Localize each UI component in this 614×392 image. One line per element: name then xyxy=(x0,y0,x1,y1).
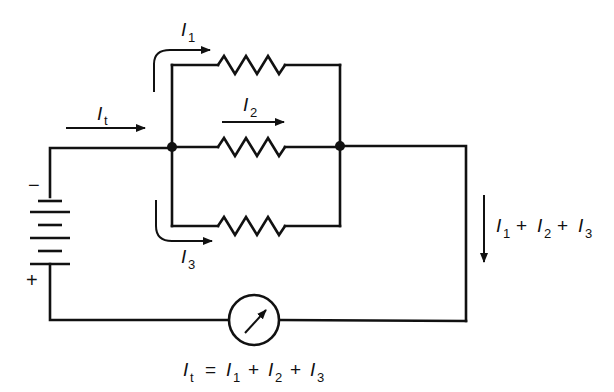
svg-text:I: I xyxy=(578,215,584,236)
ammeter-icon xyxy=(229,295,279,345)
svg-text:1: 1 xyxy=(503,226,510,241)
branch1-current-arrow-icon xyxy=(154,50,210,92)
svg-text:I: I xyxy=(310,359,316,380)
svg-text:I: I xyxy=(183,359,189,380)
svg-text:t: t xyxy=(190,370,194,385)
circuit-diagram: − + I t I 1 I 2 xyxy=(0,0,614,392)
label-branch2-current: I 2 xyxy=(243,94,257,120)
svg-text:2: 2 xyxy=(275,370,282,385)
parallel-branches xyxy=(172,65,340,226)
svg-text:I: I xyxy=(226,359,232,380)
branch3-current-arrow-icon xyxy=(156,200,212,241)
svg-text:+: + xyxy=(248,359,259,380)
svg-text:+: + xyxy=(290,359,301,380)
svg-text:+: + xyxy=(557,215,568,236)
right-junction-dot xyxy=(335,141,345,151)
left-junction-dot xyxy=(167,142,177,152)
svg-text:I: I xyxy=(268,359,274,380)
equation-total-current: I t = I 1 + I 2 + I 3 xyxy=(183,359,324,385)
battery-negative-label: − xyxy=(28,174,40,196)
svg-text:2: 2 xyxy=(544,226,551,241)
svg-text:+: + xyxy=(516,215,527,236)
resistor-1-icon xyxy=(218,56,285,74)
svg-text:3: 3 xyxy=(188,257,195,272)
resistor-2-icon xyxy=(218,138,285,156)
svg-text:1: 1 xyxy=(188,30,195,45)
svg-text:I: I xyxy=(496,215,502,236)
label-total-current: I t xyxy=(97,103,108,128)
svg-text:3: 3 xyxy=(585,226,592,241)
svg-text:I: I xyxy=(243,94,249,115)
svg-text:=: = xyxy=(205,359,216,380)
resistor-3-icon xyxy=(218,217,285,235)
svg-text:t: t xyxy=(104,113,108,128)
svg-text:I: I xyxy=(181,19,187,40)
label-sum-current: I 1 + I 2 + I 3 xyxy=(496,215,592,241)
svg-text:3: 3 xyxy=(317,370,324,385)
svg-text:I: I xyxy=(537,215,543,236)
svg-text:I: I xyxy=(181,246,187,267)
svg-text:2: 2 xyxy=(250,105,257,120)
svg-text:1: 1 xyxy=(233,370,240,385)
battery-icon xyxy=(30,201,70,264)
label-branch3-current: I 3 xyxy=(181,246,195,272)
battery-positive-label: + xyxy=(26,269,38,291)
svg-text:I: I xyxy=(97,103,103,124)
label-branch1-current: I 1 xyxy=(181,19,195,45)
